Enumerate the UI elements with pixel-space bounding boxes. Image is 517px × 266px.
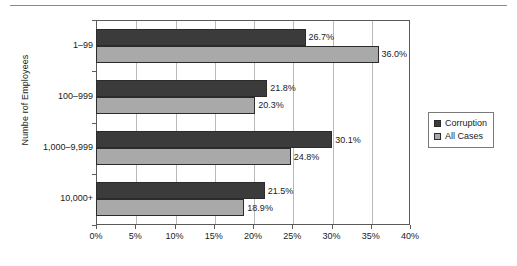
- bar-row: 24.8%: [96, 148, 410, 165]
- bar-row: 20.3%: [96, 97, 410, 114]
- x-axis-tick-mark: [96, 225, 97, 229]
- legend-label: All Cases: [445, 130, 483, 143]
- bar-row: 26.7%: [96, 29, 410, 46]
- x-axis-tick-label: 15%: [194, 231, 234, 241]
- bar-value-label: 20.3%: [255, 100, 284, 110]
- x-axis-tick-label: 40%: [390, 231, 430, 241]
- x-axis-tick-mark: [175, 225, 176, 229]
- bar-row: 30.1%: [96, 131, 410, 148]
- y-axis-tick-mark: [92, 20, 96, 21]
- bar-value-label: 24.8%: [291, 152, 320, 162]
- y-axis-category-label: 100–999: [0, 91, 93, 101]
- legend-swatch-icon: [434, 120, 441, 127]
- y-axis-category-label: 10,000+: [0, 193, 93, 203]
- chart-figure: Numbe rof Employees 0%5%10%15%20%25%30%3…: [0, 0, 517, 266]
- bar-all-cases: [96, 148, 291, 165]
- bar-corruption: [96, 29, 306, 46]
- x-axis-tick-label: 35%: [351, 231, 391, 241]
- x-axis-tick-label: 25%: [272, 231, 312, 241]
- x-axis-tick-label: 10%: [155, 231, 195, 241]
- y-axis-tick-mark: [92, 225, 96, 226]
- legend-swatch-icon: [434, 133, 441, 140]
- bar-row: 18.9%: [96, 199, 410, 216]
- bar-corruption: [96, 131, 332, 148]
- bar-row: 21.8%: [96, 80, 410, 97]
- x-axis-tick-label: 30%: [312, 231, 352, 241]
- x-axis-tick-mark: [292, 225, 293, 229]
- bar-row: 21.5%: [96, 182, 410, 199]
- bar-value-label: 30.1%: [332, 135, 361, 145]
- y-axis-category-label: 1–99: [0, 40, 93, 50]
- legend-label: Corruption: [445, 117, 487, 130]
- bar-all-cases: [96, 97, 255, 114]
- y-axis-tick-mark: [92, 123, 96, 124]
- x-axis-tick-mark: [135, 225, 136, 229]
- bar-value-label: 26.7%: [306, 32, 335, 42]
- bar-corruption: [96, 182, 265, 199]
- x-axis-tick-mark: [214, 225, 215, 229]
- bar-all-cases: [96, 46, 379, 63]
- x-axis-tick-mark: [332, 225, 333, 229]
- bar-value-label: 36.0%: [379, 49, 408, 59]
- x-axis-tick-mark: [410, 225, 411, 229]
- bar-value-label: 21.5%: [265, 186, 294, 196]
- bar-all-cases: [96, 199, 244, 216]
- chart-legend: CorruptionAll Cases: [428, 112, 494, 148]
- y-axis-category-label: 1,000–9,999: [0, 142, 93, 152]
- bar-value-label: 18.9%: [244, 203, 273, 213]
- x-axis-tick-label: 5%: [115, 231, 155, 241]
- header-rule: [10, 5, 507, 6]
- bar-corruption: [96, 80, 267, 97]
- bar-row: 36.0%: [96, 46, 410, 63]
- y-axis-tick-mark: [92, 71, 96, 72]
- bar-value-label: 21.8%: [267, 83, 296, 93]
- legend-item-all-cases[interactable]: All Cases: [434, 130, 487, 143]
- x-axis-tick-label: 0%: [76, 231, 116, 241]
- x-axis-tick-label: 20%: [233, 231, 273, 241]
- x-axis-tick-mark: [371, 225, 372, 229]
- x-axis-tick-mark: [253, 225, 254, 229]
- y-axis-tick-mark: [92, 174, 96, 175]
- legend-item-corruption[interactable]: Corruption: [434, 117, 487, 130]
